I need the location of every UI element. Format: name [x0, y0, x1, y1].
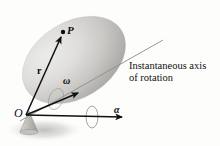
origin-label: O	[14, 106, 23, 120]
ground-shadow	[4, 118, 84, 142]
r-vector-label: r	[37, 65, 41, 77]
alpha-vector-arrow	[26, 115, 122, 117]
point-p-marker	[61, 30, 65, 34]
rotation-diagram-figure: P r ω O α Instantaneous axis of rotation	[0, 0, 220, 146]
rigid-body-ellipsoid	[6, 0, 141, 122]
instantaneous-axis-caption: Instantaneous axis of rotation	[129, 60, 206, 85]
omega-vector-label: ω	[63, 75, 70, 87]
axis-caption-line-1: Instantaneous axis	[129, 60, 206, 72]
axis-caption-line-2: of rotation	[129, 72, 206, 84]
point-p-label: P	[67, 24, 74, 37]
alpha-vector-label: α	[114, 104, 120, 116]
